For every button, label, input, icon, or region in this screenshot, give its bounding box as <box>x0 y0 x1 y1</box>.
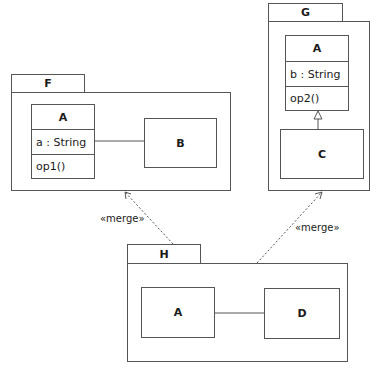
connectors <box>0 0 377 368</box>
merge-label-right: «merge» <box>295 222 340 233</box>
open-arrowhead-icon <box>315 192 322 199</box>
merge-label-left: «merge» <box>100 213 145 224</box>
generalization-arrowhead-icon <box>314 111 322 119</box>
clipped-caption <box>0 362 377 368</box>
